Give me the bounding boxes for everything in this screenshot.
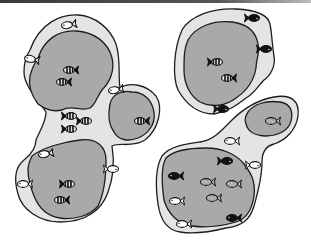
patch-left-lower-core — [28, 140, 106, 219]
figure — [0, 0, 311, 240]
patches-diagram — [0, 0, 311, 240]
